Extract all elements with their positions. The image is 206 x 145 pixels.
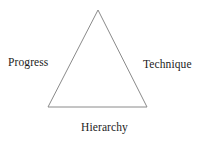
triangle-outline	[48, 10, 147, 107]
label-hierarchy: Hierarchy	[0, 121, 206, 134]
label-progress: Progress	[8, 56, 48, 69]
label-technique: Technique	[143, 58, 192, 71]
triangle-diagram: Progress Technique Hierarchy	[0, 0, 206, 145]
